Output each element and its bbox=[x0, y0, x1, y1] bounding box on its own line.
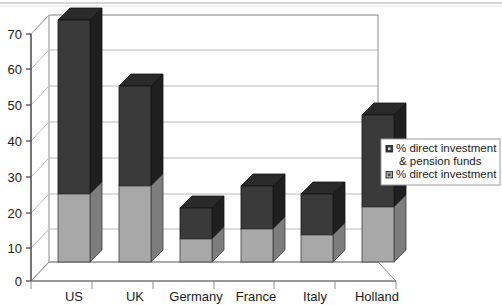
legend-swatch-dark-inner-icon bbox=[388, 148, 391, 151]
bar-uk-light-side bbox=[151, 174, 163, 262]
bar-germany-dark-front bbox=[180, 208, 212, 239]
bar-italy-dark-front bbox=[301, 194, 333, 235]
cat-label-holland: Holland bbox=[355, 289, 399, 304]
bar-france-dark-front bbox=[241, 186, 273, 229]
cat-label-uk: UK bbox=[126, 289, 144, 304]
bar-group-germany[interactable] bbox=[180, 196, 224, 262]
bar-us-light-side bbox=[90, 182, 102, 262]
bar-us-light-front bbox=[58, 194, 90, 262]
bar-group-us[interactable] bbox=[58, 8, 102, 262]
y-axis-tick-labels: 70 60 50 40 30 20 10 0 bbox=[8, 27, 22, 289]
y-tick-40: 40 bbox=[8, 134, 22, 149]
cat-label-germany: Germany bbox=[169, 289, 223, 304]
y-tick-70: 70 bbox=[8, 27, 22, 42]
legend-entry-direct-investment[interactable]: % direct investment bbox=[386, 168, 497, 180]
bar-group-france[interactable] bbox=[241, 174, 285, 262]
bar-chart-3d: 70 60 50 40 30 20 10 0 bbox=[0, 0, 502, 305]
bar-france-light-front bbox=[241, 229, 273, 262]
y-tick-60: 60 bbox=[8, 62, 22, 77]
legend-entry-pension-funds[interactable]: % direct investment & pension funds bbox=[386, 142, 497, 167]
legend-label-1-line1: % direct investment bbox=[396, 142, 497, 154]
plot-left-wall bbox=[31, 15, 49, 281]
bar-uk-dark-side bbox=[151, 74, 163, 186]
legend-swatch-light-inner-icon bbox=[388, 174, 391, 177]
chart-container: 70 60 50 40 30 20 10 0 bbox=[0, 0, 502, 305]
bar-italy-light-front bbox=[301, 235, 333, 262]
cat-label-italy: Italy bbox=[303, 289, 327, 304]
y-tick-30: 30 bbox=[8, 170, 22, 185]
bar-uk-dark-front bbox=[119, 86, 151, 186]
y-tick-50: 50 bbox=[8, 98, 22, 113]
x-axis-category-ticks bbox=[31, 281, 396, 289]
chart-legend: % direct investment & pension funds % di… bbox=[381, 139, 500, 185]
bar-us-dark-front bbox=[58, 20, 90, 194]
bar-germany-light-front bbox=[180, 239, 212, 262]
cat-label-france: France bbox=[236, 289, 276, 304]
bar-group-italy[interactable] bbox=[301, 182, 345, 262]
cat-label-us: US bbox=[65, 289, 83, 304]
bar-us-dark-side bbox=[90, 8, 102, 194]
bar-uk-light-front bbox=[119, 186, 151, 262]
legend-label-2-line1: % direct investment bbox=[396, 168, 497, 180]
bar-holland-light-side bbox=[394, 195, 406, 262]
y-tick-0: 0 bbox=[15, 274, 22, 289]
bar-group-uk[interactable] bbox=[119, 74, 163, 262]
legend-label-1-line2: & pension funds bbox=[399, 155, 482, 167]
bar-holland-light-front bbox=[362, 207, 394, 262]
y-tick-10: 10 bbox=[8, 241, 22, 256]
y-axis bbox=[26, 34, 31, 281]
plot-floor bbox=[31, 262, 396, 281]
x-axis-category-labels: US UK Germany France Italy Holland bbox=[65, 289, 399, 304]
y-tick-20: 20 bbox=[8, 206, 22, 221]
